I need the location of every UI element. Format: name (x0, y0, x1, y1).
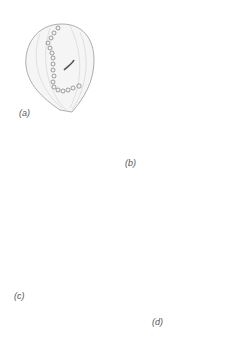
panel-label-d: (d) (152, 317, 163, 327)
diagram (0, 0, 239, 339)
cell-a (26, 24, 94, 112)
panel-label-b: (b) (125, 158, 136, 168)
panel-label-c: (c) (14, 291, 25, 301)
panel-label-a: (a) (19, 108, 30, 118)
